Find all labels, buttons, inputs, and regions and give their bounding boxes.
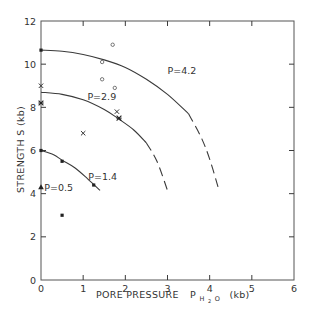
x-axis-label: PORE PRESSURE P H 2 O (kb) (96, 289, 250, 305)
x-axis-label-sub: H (199, 295, 204, 303)
y-tick-label: 4 (30, 188, 36, 199)
open-circle-marker (113, 86, 116, 89)
x-axis-label-unit: (kb) (229, 289, 249, 300)
y-tick-label: 0 (30, 275, 36, 286)
filled-circle-marker (60, 160, 63, 163)
curve-dashed-p-2-9 (146, 143, 167, 190)
triangle-marker (38, 184, 44, 189)
y-tick-label: 10 (24, 59, 36, 70)
x-axis-label-sub3: O (215, 295, 220, 303)
open-circle-marker (100, 78, 103, 81)
strength-vs-pore-pressure-chart: 0123456024681012 P=4.2P=2.9P=1.4P=0.5 PO… (0, 0, 310, 319)
x-tick-label: 5 (249, 283, 255, 294)
filled-circle-marker (60, 214, 63, 217)
filled-circle-marker (92, 183, 95, 186)
x-axis-label-symbol: P (190, 289, 196, 300)
curve-label: P=2.9 (87, 91, 116, 102)
curve-label: P=1.4 (88, 171, 117, 182)
filled-circle-marker (39, 49, 42, 52)
x-axis-label-main: PORE PRESSURE (96, 289, 179, 300)
open-circle-marker (111, 43, 114, 46)
x-tick-label: 0 (38, 283, 44, 294)
curve-label: P=0.5 (44, 182, 73, 193)
cross-marker (115, 109, 119, 113)
y-tick-label: 8 (30, 102, 36, 113)
curve-labels: P=4.2P=2.9P=1.4P=0.5 (44, 65, 196, 193)
plot-frame (41, 21, 294, 280)
filled-circle-marker (39, 149, 42, 152)
cross-marker (81, 131, 85, 135)
y-tick-label: 2 (30, 231, 36, 242)
curve-dashed-p-4-2 (189, 114, 219, 187)
y-tick-label: 6 (30, 145, 36, 156)
y-axis-label: STRENGTH S (kb) (15, 106, 26, 193)
plot-border (41, 21, 294, 280)
open-circle-marker (100, 60, 103, 63)
axis-ticks (41, 21, 294, 280)
axis-tick-labels: 0123456024681012 (24, 16, 297, 295)
x-axis-label-sub2: 2 (208, 298, 211, 304)
y-tick-label: 12 (24, 16, 36, 27)
x-tick-label: 6 (291, 283, 297, 294)
curve-p-4-2 (41, 50, 189, 114)
curve-label: P=4.2 (168, 65, 197, 76)
x-tick-label: 1 (80, 283, 86, 294)
